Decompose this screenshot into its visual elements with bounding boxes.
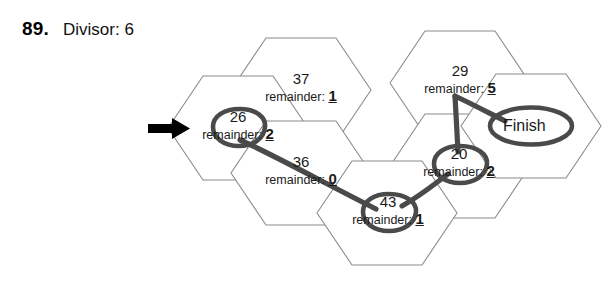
cell-finish-value: Finish (503, 117, 546, 134)
hexagon-maze-board (0, 0, 610, 286)
label-cell-finish: Finish (503, 117, 546, 135)
path-20-to-29 (455, 96, 458, 152)
worksheet-page: 89. Divisor: 6 (0, 0, 610, 286)
